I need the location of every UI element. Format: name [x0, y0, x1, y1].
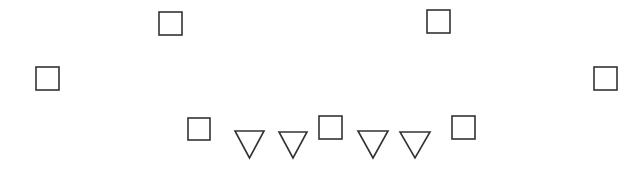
square-mid-right-shape	[594, 67, 617, 90]
square-top-left-shape	[159, 12, 182, 35]
square-bottom-1-shape	[188, 118, 210, 140]
triangle-down-2-shape	[279, 132, 307, 158]
square-mid-left-shape	[36, 67, 59, 90]
triangle-down-1-shape	[235, 131, 264, 158]
square-bottom-3-shape	[452, 116, 475, 139]
square-top-right-shape	[427, 10, 450, 33]
triangles-group	[235, 131, 430, 158]
triangle-down-3-shape	[358, 131, 388, 158]
diagram-canvas	[0, 0, 637, 177]
squares-group	[36, 10, 617, 140]
square-bottom-2-shape	[319, 116, 342, 139]
triangle-down-4-shape	[400, 132, 430, 158]
